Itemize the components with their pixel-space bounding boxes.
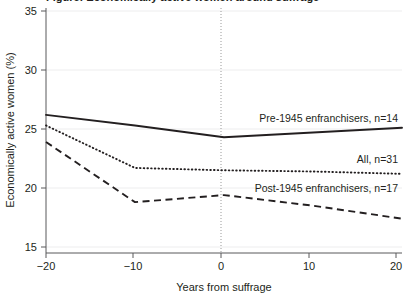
x-axis-ticks [46, 253, 396, 258]
line-chart: 35 30 25 20 15 Economically active women… [0, 0, 406, 299]
series-label-all: All, n=31 [357, 153, 398, 165]
y-tick-label-30: 30 [25, 64, 37, 76]
series-label-post-1945: Post-1945 enfranchisers, n=17 [255, 182, 398, 194]
series-label-pre-1945: Pre-1945 enfranchisers, n=14 [259, 112, 398, 124]
x-tick-label-minus-20: −20 [37, 260, 56, 272]
x-tick-label-20: 20 [390, 260, 402, 272]
y-tick-label-35: 35 [25, 5, 37, 17]
y-axis-ticks [41, 11, 46, 247]
x-axis-title: Years from suffrage [176, 281, 271, 293]
figure-canvas: Figure: Economically active women around… [0, 0, 406, 299]
y-tick-label-15: 15 [25, 241, 37, 253]
x-tick-label-10: 10 [303, 260, 315, 272]
x-tick-label-minus-10: −10 [124, 260, 143, 272]
series-line-all [46, 125, 402, 173]
y-axis-title: Economically active women (%) [4, 52, 16, 207]
x-tick-label-zero: 0 [218, 260, 224, 272]
y-tick-label-25: 25 [25, 123, 37, 135]
y-tick-label-20: 20 [25, 182, 37, 194]
series-line-post-1945 [46, 142, 402, 219]
